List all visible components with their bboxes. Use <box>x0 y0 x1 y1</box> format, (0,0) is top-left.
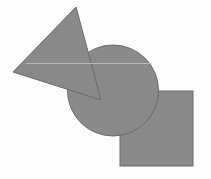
shapes-drawing <box>0 0 211 179</box>
diagram-canvas <box>0 0 211 179</box>
triangle-shape <box>13 7 101 100</box>
